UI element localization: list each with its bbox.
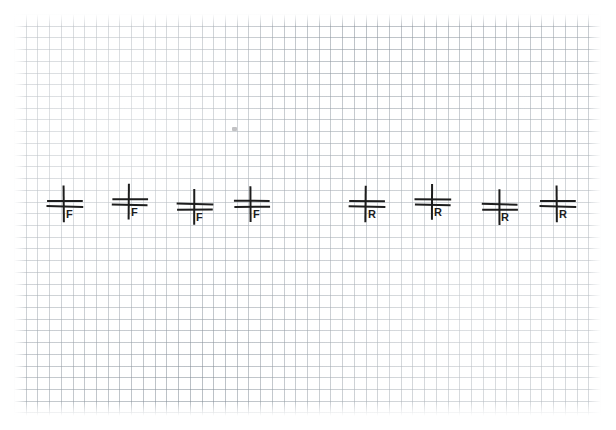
capacitor-glyph-icon: [174, 187, 220, 231]
capacitor-symbol-f-3: F: [174, 187, 220, 231]
capacitor-glyph-icon: [109, 182, 155, 226]
upper-plate-line: [482, 204, 518, 205]
capacitor-glyph-icon: [346, 184, 392, 228]
drawn-symbol-layer: FFFFRRRR: [0, 0, 616, 430]
symbol-label-f: F: [131, 207, 138, 218]
graph-paper-page: FFFFRRRR: [0, 0, 616, 430]
capacitor-symbol-r-6: R: [412, 182, 458, 226]
capacitor-glyph-icon: [537, 184, 583, 228]
symbol-label-r: R: [434, 207, 442, 218]
capacitor-symbol-f-2: F: [109, 182, 155, 226]
lower-plate-line: [47, 206, 84, 207]
symbol-label-r: R: [368, 209, 376, 220]
symbol-label-f: F: [66, 209, 73, 220]
stray-pencil-mark-icon: [232, 127, 237, 131]
upper-plate-line: [177, 204, 214, 205]
capacitor-symbol-r-8: R: [537, 184, 583, 228]
symbol-label-f: F: [253, 209, 260, 220]
capacitor-symbol-r-7: R: [479, 187, 525, 231]
lower-plate-line: [540, 206, 577, 207]
lower-plate-line: [415, 205, 451, 206]
capacitor-glyph-icon: [44, 184, 90, 228]
symbol-label-r: R: [559, 209, 567, 220]
capacitor-glyph-icon: [231, 184, 277, 228]
symbol-label-r: R: [501, 212, 509, 223]
capacitor-glyph-icon: [479, 187, 525, 231]
capacitor-symbol-r-5: R: [346, 184, 392, 228]
capacitor-glyph-icon: [412, 182, 458, 226]
lower-plate-line: [112, 204, 148, 205]
symbol-label-f: F: [196, 212, 203, 223]
lower-plate-line: [349, 206, 386, 207]
capacitor-symbol-f-4: F: [231, 184, 277, 228]
capacitor-symbol-f-1: F: [44, 184, 90, 228]
